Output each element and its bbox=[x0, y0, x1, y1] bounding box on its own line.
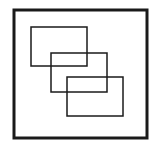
outer-frame bbox=[14, 10, 147, 138]
rectangle-3 bbox=[67, 77, 123, 116]
rectangle-1 bbox=[31, 27, 87, 66]
rectangle-2 bbox=[51, 53, 107, 92]
diagram-canvas bbox=[0, 0, 158, 147]
